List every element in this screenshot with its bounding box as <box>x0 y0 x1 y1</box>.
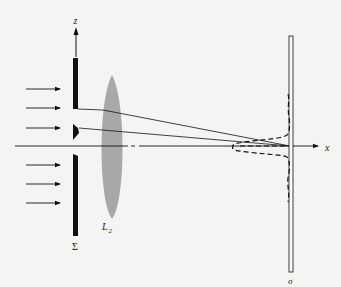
x-axis-label: x <box>324 142 330 153</box>
z-axis-label: z <box>73 15 78 26</box>
observation-screen-label: σ <box>288 276 293 286</box>
optical-axis: x <box>15 142 330 153</box>
aperture-screen: Σ <box>72 58 79 252</box>
diffraction-diagram: z Σ L2 x σ <box>0 0 341 287</box>
intensity-pattern <box>233 94 290 202</box>
lens-label: L2 <box>101 221 113 235</box>
lens: L2 <box>101 75 123 235</box>
aperture-screen-label: Σ <box>72 241 78 252</box>
z-axis: z <box>73 15 79 57</box>
